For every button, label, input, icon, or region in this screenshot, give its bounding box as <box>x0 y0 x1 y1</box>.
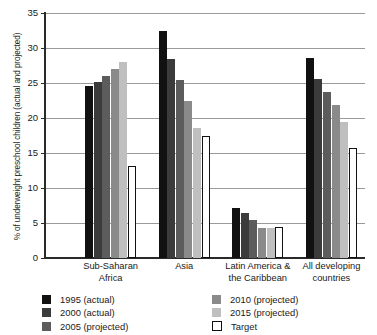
bar <box>94 82 102 258</box>
y-axis-tick-label: 5 <box>33 218 38 228</box>
bar <box>241 213 249 259</box>
x-axis-label: All developingcountries <box>276 261 377 284</box>
bar <box>193 128 201 258</box>
bar <box>159 31 167 258</box>
y-axis-tick <box>41 188 45 189</box>
bar <box>340 122 348 259</box>
legend-label: 2015 (projected) <box>230 308 298 317</box>
legend-swatch-target <box>212 321 222 331</box>
y-axis-tick-label: 15 <box>27 148 38 158</box>
legend-swatch-2015 <box>212 308 221 317</box>
x-axis-label-line: Africa <box>56 273 166 285</box>
bar <box>323 92 331 258</box>
bar-group <box>159 13 210 258</box>
y-axis-tick <box>41 223 45 224</box>
legend-column-left: 1995 (actual)2000 (actual)2005 (projecte… <box>42 293 128 333</box>
bar <box>306 58 314 258</box>
bar <box>102 76 110 258</box>
legend-label: 1995 (actual) <box>60 295 115 304</box>
legend-label: 2000 (actual) <box>60 308 115 317</box>
bar <box>249 220 257 258</box>
bar <box>167 59 175 258</box>
y-axis-tick-label: 35 <box>27 8 38 18</box>
legend-item[interactable]: 2005 (projected) <box>42 320 128 333</box>
y-axis-title: % of underweight preschool children (act… <box>13 12 22 262</box>
bar <box>184 101 192 258</box>
y-axis-tick-label: 30 <box>27 43 38 53</box>
bar <box>232 208 240 258</box>
legend-swatch-2010 <box>212 295 221 304</box>
bar-group <box>232 13 283 258</box>
y-axis-tick <box>41 13 45 14</box>
legend-item[interactable]: 2000 (actual) <box>42 306 128 319</box>
legend-column-right: 2010 (projected)2015 (projected)Target <box>212 293 298 333</box>
x-axis-label-line: countries <box>276 273 377 285</box>
bar <box>119 62 127 258</box>
y-axis-tick <box>41 83 45 84</box>
bar <box>202 136 210 258</box>
legend-item[interactable]: 2010 (projected) <box>212 293 298 306</box>
y-axis-tick <box>41 48 45 49</box>
y-axis-tick <box>41 258 45 259</box>
plot-area: 05101520253035 <box>45 13 365 258</box>
legend-swatch-2005 <box>42 322 51 331</box>
legend-label: 2010 (projected) <box>230 295 298 304</box>
bar <box>332 105 340 258</box>
legend-item[interactable]: Target <box>212 320 298 333</box>
bar <box>267 228 275 258</box>
y-axis-tick <box>41 153 45 154</box>
bar <box>258 228 266 258</box>
bar-chart-figure: % of underweight preschool children (act… <box>0 0 377 335</box>
bar <box>85 86 93 258</box>
legend-swatch-2000 <box>42 308 51 317</box>
bar-group <box>306 13 357 258</box>
legend-item[interactable]: 2015 (projected) <box>212 306 298 319</box>
bar <box>349 148 357 258</box>
bars-container <box>45 13 365 258</box>
y-axis-tick-label: 25 <box>27 78 38 88</box>
y-axis-tick-label: 20 <box>27 113 38 123</box>
bar <box>128 166 136 258</box>
bar <box>275 227 283 258</box>
y-axis-tick-label: 10 <box>27 183 38 193</box>
bar-group <box>85 13 136 258</box>
y-axis-tick <box>41 118 45 119</box>
bar <box>176 80 184 258</box>
bar <box>111 69 119 258</box>
x-axis-label-line: All developing <box>276 261 377 273</box>
chart-legend: 1995 (actual)2000 (actual)2005 (projecte… <box>0 293 377 335</box>
y-axis-tick-label: 0 <box>33 253 38 263</box>
legend-item[interactable]: 1995 (actual) <box>42 293 128 306</box>
legend-label: 2005 (projected) <box>60 322 128 331</box>
legend-swatch-1995 <box>42 295 51 304</box>
bar <box>314 79 322 258</box>
legend-label: Target <box>231 322 257 331</box>
x-axis-labels: Sub-SaharanAfricaAsiaLatin America &the … <box>45 261 365 291</box>
